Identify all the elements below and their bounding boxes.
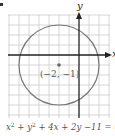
axes bbox=[8, 17, 107, 118]
circle-equation: x2 + y2 + 4x + 2y −11 = 0 bbox=[6, 122, 115, 132]
coordinate-plane bbox=[0, 0, 115, 136]
y-axis-label: y bbox=[77, 1, 83, 11]
circle-graph-figure: y x (−2, −1) x2 + y2 + 4x + 2y −11 = 0 bbox=[0, 0, 115, 136]
x-axis-arrow-icon bbox=[105, 52, 112, 58]
x-axis-label: x bbox=[112, 49, 115, 59]
center-label: (−2, −1) bbox=[40, 70, 79, 79]
center-point bbox=[57, 63, 61, 67]
y-axis-arrow-icon bbox=[76, 12, 82, 19]
